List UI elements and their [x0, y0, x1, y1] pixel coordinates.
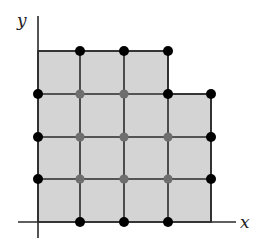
boundary-point	[119, 46, 129, 56]
interior-point	[75, 132, 84, 141]
y-axis-label: y	[16, 10, 27, 30]
interior-point	[75, 89, 84, 98]
interior-point	[119, 132, 128, 141]
lattice-region-diagram: y x	[0, 0, 266, 246]
interior-point	[119, 89, 128, 98]
x-axis-label: x	[240, 212, 250, 232]
interior-point	[163, 174, 172, 183]
boundary-point	[163, 46, 173, 56]
boundary-point	[119, 217, 129, 227]
boundary-point	[163, 89, 173, 99]
boundary-point	[206, 174, 216, 184]
boundary-point	[75, 217, 85, 227]
interior-point	[119, 174, 128, 183]
boundary-point	[206, 89, 216, 99]
boundary-point	[163, 217, 173, 227]
boundary-point	[33, 174, 43, 184]
boundary-point	[75, 46, 85, 56]
boundary-point	[33, 132, 43, 142]
interior-point	[75, 174, 84, 183]
boundary-point	[206, 132, 216, 142]
interior-point	[163, 132, 172, 141]
boundary-point	[33, 89, 43, 99]
